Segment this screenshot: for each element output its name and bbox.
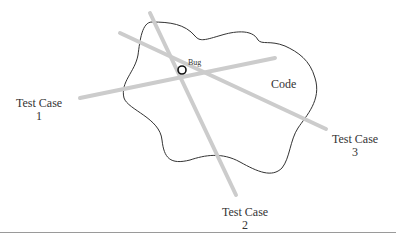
test-case-2-label: Test Case 2 xyxy=(222,206,268,232)
bottom-divider xyxy=(0,232,396,233)
code-region-label: Code xyxy=(271,78,296,91)
test-case-2-line xyxy=(150,13,236,195)
test-case-3-number: 3 xyxy=(332,146,378,159)
test-case-1-label: Test Case 1 xyxy=(16,97,62,123)
test-case-3-label: Test Case 3 xyxy=(332,133,378,159)
bug-marker-icon xyxy=(178,66,186,74)
test-case-2-number: 2 xyxy=(222,219,268,232)
test-case-1-number: 1 xyxy=(16,110,62,123)
code-region-outline xyxy=(123,22,316,173)
bug-label: Bug xyxy=(188,56,201,69)
